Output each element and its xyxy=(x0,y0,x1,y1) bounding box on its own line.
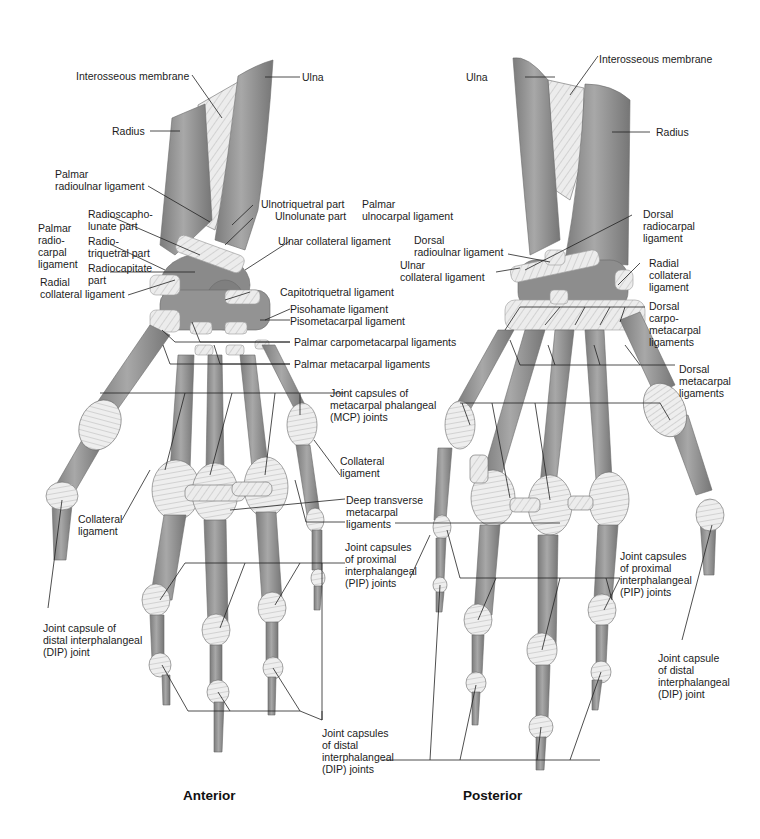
label-radius-posterior: Radius xyxy=(656,126,689,138)
label-mcp-joint-capsules: Joint capsules of metacarpal phalangeal … xyxy=(330,387,436,423)
label-dip-joint-capsule-posterior: Joint capsule of distal interphalangeal … xyxy=(658,652,730,700)
label-radius-anterior: Radius xyxy=(112,125,145,137)
label-pip-joint-capsules-anterior: Joint capsules of proximal interphalange… xyxy=(345,541,417,589)
label-interosseous-membrane-anterior: Interosseous membrane xyxy=(76,70,189,82)
label-capitotriquetral-ligament: Capitotriquetral ligament xyxy=(280,286,394,298)
label-radioscapholunate-part: Radioscapho- lunate part xyxy=(88,208,153,232)
label-radial-collateral-ligament-anterior: Radial collateral ligament xyxy=(40,276,125,300)
label-ulnotriquetral-part: Ulnotriquetral part xyxy=(261,198,344,210)
label-dorsal-metacarpal-ligaments: Dorsal metacarpal ligaments xyxy=(679,363,731,399)
label-pisohamate-ligament: Pisohamate ligament xyxy=(290,303,388,315)
label-ulnar-collateral-ligament-posterior: Ulnar collateral ligament xyxy=(400,259,485,283)
label-pip-joint-capsules-posterior: Joint capsules of proximal interphalange… xyxy=(620,550,692,598)
label-collateral-ligament-right: Collateral ligament xyxy=(340,455,384,479)
view-title-posterior: Posterior xyxy=(463,788,522,803)
label-radiotriquetral-part: Radio- triquetral part xyxy=(88,235,150,259)
label-ulnolunate-part: Ulnolunate part xyxy=(275,210,346,222)
label-deep-transverse-metacarpal-ligaments: Deep transverse metacarpal ligaments xyxy=(346,494,423,530)
label-radial-collateral-ligament-posterior: Radial collateral ligament xyxy=(649,257,691,293)
view-title-anterior: Anterior xyxy=(183,788,236,803)
label-dorsal-radiocarpal-ligament: Dorsal radiocarpal ligament xyxy=(643,208,695,244)
label-ulna-posterior: Ulna xyxy=(466,71,488,83)
label-palmar-radiocarpal-ligament: Palmar radio- carpal ligament xyxy=(38,222,78,270)
label-palmar-ulnocarpal-ligament: Palmar ulnocarpal ligament xyxy=(362,198,453,222)
label-pisometacarpal-ligament: Pisometacarpal ligament xyxy=(290,315,405,327)
label-palmar-radioulnar-ligament: Palmar radioulnar ligament xyxy=(55,168,144,192)
radius-anterior xyxy=(160,104,212,255)
label-collateral-ligament-left: Collateral ligament xyxy=(78,513,122,537)
label-interosseous-membrane-posterior: Interosseous membrane xyxy=(599,53,712,65)
label-dip-joint-capsules: Joint capsules of distal interphalangeal… xyxy=(322,727,394,775)
label-ulna-anterior: Ulna xyxy=(302,71,324,83)
label-dip-joint-capsule-anterior: Joint capsule of distal interphalangeal … xyxy=(43,622,142,658)
label-ulnar-collateral-ligament-anterior: Ulnar collateral ligament xyxy=(278,235,391,247)
label-dorsal-carpometacarpal-ligaments: Dorsal carpo- metacarpal ligaments xyxy=(649,300,701,348)
label-palmar-metacarpal-ligaments: Palmar metacarpal ligaments xyxy=(294,358,430,370)
label-dorsal-radioulnar-ligament: Dorsal radioulnar ligament xyxy=(414,234,503,258)
hand-ligaments-figure: Interosseous membrane Ulna Radius Palmar… xyxy=(0,0,760,839)
label-palmar-carpometacarpal-ligaments: Palmar carpometacarpal ligaments xyxy=(294,336,456,348)
